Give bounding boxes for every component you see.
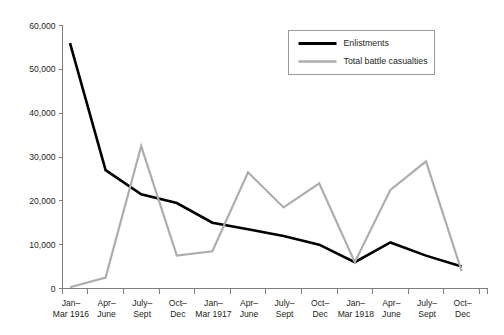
x-tick-label: Oct–Dec — [169, 298, 187, 319]
chart-legend: EnlistmentsTotal battle casualties — [289, 31, 435, 75]
x-tick-label: July–Sept — [275, 298, 295, 319]
x-tick-label: Apr–June — [97, 298, 116, 319]
chart-series-group — [70, 43, 462, 287]
x-tick-label: Apr–June — [240, 298, 259, 319]
x-tick-label: Jan–Mar 1918 — [338, 298, 375, 319]
x-tick-label: July–Sept — [417, 298, 437, 319]
series-line — [70, 43, 462, 267]
x-tick-label: Apr–June — [382, 298, 401, 319]
x-tick-label: Jan–Mar 1917 — [195, 298, 232, 319]
x-tick-label: Oct–Dec — [311, 298, 329, 319]
y-axis: 010,00020,00030,00040,00050,00060,000 — [29, 21, 62, 294]
x-tick-label: Oct–Dec — [454, 298, 472, 319]
y-tick-label: 20,000 — [29, 196, 56, 206]
y-tick-label: 40,000 — [29, 108, 56, 118]
legend-label: Total battle casualties — [344, 56, 429, 66]
x-axis: Jan–Mar 1916Apr–JuneJuly–SeptOct–DecJan–… — [53, 289, 488, 319]
series-line — [70, 146, 462, 287]
y-tick-label: 0 — [51, 284, 56, 294]
y-tick-label: 60,000 — [29, 21, 56, 31]
legend-label: Enlistments — [344, 38, 390, 48]
x-tick-label: July–Sept — [132, 298, 152, 319]
y-tick-label: 30,000 — [29, 152, 56, 162]
y-tick-label: 10,000 — [29, 240, 56, 250]
y-tick-label: 50,000 — [29, 64, 56, 74]
x-tick-label: Jan–Mar 1916 — [53, 298, 90, 319]
line-chart: 010,00020,00030,00040,00050,00060,000 Ja… — [0, 0, 504, 335]
chart-container: 010,00020,00030,00040,00050,00060,000 Ja… — [0, 0, 504, 335]
